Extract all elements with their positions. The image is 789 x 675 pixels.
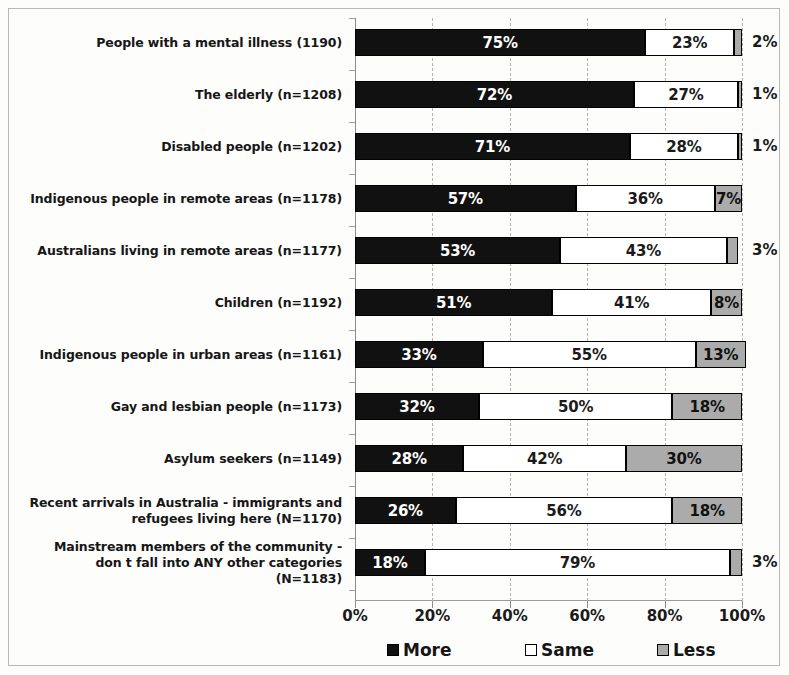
legend-item-same: Same: [525, 640, 594, 660]
category-label: People with a mental illness (1190): [12, 35, 342, 51]
bar-segment-same: 43%: [560, 237, 726, 264]
x-axis-tick-label: 60%: [555, 607, 619, 625]
bar-segment-less: [730, 549, 742, 576]
category-label: Australians living in remote areas (n=11…: [12, 243, 342, 259]
category-label: Disabled people (n=1202): [12, 139, 342, 155]
x-axis-tick-label: 40%: [478, 607, 542, 625]
bar-row: 75%23%: [355, 29, 742, 56]
x-axis-line: [355, 600, 743, 601]
legend-item-less: Less: [657, 640, 716, 660]
bar-segment-same: 23%: [645, 29, 734, 56]
x-axis-tick-label: 20%: [400, 607, 464, 625]
bar-value-label-less-outside: 3%: [752, 237, 777, 264]
bar-segment-more: 18%: [355, 549, 425, 576]
y-axis-tick: [349, 18, 355, 19]
category-label: Mainstream members of the community -don…: [12, 539, 342, 587]
bar-segment-less: 18%: [672, 497, 742, 524]
bar-row: 26%56%18%: [355, 497, 742, 524]
bar-segment-more: 33%: [355, 341, 483, 368]
y-axis-tick: [349, 382, 355, 383]
chart-page: People with a mental illness (1190)The e…: [0, 0, 789, 675]
bar-row: 71%28%: [355, 133, 742, 160]
category-label-line: Mainstream members of the community -: [12, 539, 342, 555]
bar-value-label-less-outside: 1%: [752, 133, 777, 160]
bar-segment-less: 13%: [696, 341, 746, 368]
category-label-line: People with a mental illness (1190): [12, 35, 342, 51]
category-label: Indigenous people in remote areas (n=117…: [12, 191, 342, 207]
y-axis-tick: [349, 70, 355, 71]
y-axis-tick: [349, 590, 355, 591]
x-axis-tick-label: 100%: [710, 607, 774, 625]
x-axis-tick-label: 80%: [633, 607, 697, 625]
category-label-line: Recent arrivals in Australia - immigrant…: [12, 495, 342, 511]
bar-segment-same: 55%: [483, 341, 696, 368]
legend-swatch-same-icon: [525, 644, 537, 656]
bar-segment-less: [738, 133, 742, 160]
bar-segment-less: 8%: [711, 289, 742, 316]
bar-segment-same: 41%: [552, 289, 711, 316]
bar-segment-same: 56%: [456, 497, 673, 524]
bar-row: 57%36%7%: [355, 185, 742, 212]
category-label-line: Disabled people (n=1202): [12, 139, 342, 155]
y-axis-tick: [349, 174, 355, 175]
bar-row: 33%55%13%: [355, 341, 742, 368]
bar-segment-more: 26%: [355, 497, 456, 524]
chart-legend: More Same Less: [355, 640, 745, 666]
y-axis-tick: [349, 122, 355, 123]
plot-area: 75%23%72%27%71%28%57%36%7%53%43%51%41%8%…: [355, 18, 742, 601]
bar-segment-same: 27%: [634, 81, 738, 108]
legend-item-more: More: [387, 640, 452, 660]
bar-row: 72%27%: [355, 81, 742, 108]
category-label-line: refugees living here (N=1170): [12, 511, 342, 527]
bar-segment-more: 75%: [355, 29, 645, 56]
legend-label-same: Same: [541, 640, 594, 660]
category-label-line: don t fall into ANY other categories: [12, 555, 342, 571]
y-axis-tick: [349, 226, 355, 227]
bar-segment-less: [738, 81, 742, 108]
y-axis-tick: [349, 486, 355, 487]
bar-row: 32%50%18%: [355, 393, 742, 420]
y-axis-tick: [349, 330, 355, 331]
bar-row: 18%79%: [355, 549, 742, 576]
bar-segment-same: 28%: [630, 133, 738, 160]
bar-segment-less: [727, 237, 739, 264]
bar-value-label-less-outside: 3%: [752, 549, 777, 576]
category-label-line: Indigenous people in urban areas (n=1161…: [12, 347, 342, 363]
category-label-line: The elderly (n=1208): [12, 87, 342, 103]
legend-label-less: Less: [673, 640, 716, 660]
bar-value-label-less-outside: 1%: [752, 81, 777, 108]
category-label-line: Children (n=1192): [12, 295, 342, 311]
bar-segment-less: [734, 29, 742, 56]
category-label-line: (N=1183): [12, 571, 342, 587]
bar-segment-more: 57%: [355, 185, 576, 212]
legend-label-more: More: [403, 640, 452, 660]
bar-segment-less: 18%: [672, 393, 742, 420]
bar-value-label-less-outside: 2%: [752, 29, 777, 56]
category-label-line: Asylum seekers (n=1149): [12, 451, 342, 467]
bar-row: 28%42%30%: [355, 445, 742, 472]
bar-segment-same: 50%: [479, 393, 673, 420]
bar-segment-more: 51%: [355, 289, 552, 316]
bar-segment-same: 36%: [576, 185, 715, 212]
category-label: Children (n=1192): [12, 295, 342, 311]
bar-segment-more: 28%: [355, 445, 463, 472]
bar-segment-more: 71%: [355, 133, 630, 160]
gridline: [742, 18, 744, 601]
category-label: Indigenous people in urban areas (n=1161…: [12, 347, 342, 363]
category-label: Gay and lesbian people (n=1173): [12, 399, 342, 415]
x-axis-tick-label: 0%: [323, 607, 387, 625]
bar-row: 51%41%8%: [355, 289, 742, 316]
y-axis-tick: [349, 278, 355, 279]
bar-segment-less: 30%: [626, 445, 742, 472]
bar-segment-less: 7%: [715, 185, 742, 212]
y-axis-tick: [349, 538, 355, 539]
category-label-line: Indigenous people in remote areas (n=117…: [12, 191, 342, 207]
legend-swatch-less-icon: [657, 644, 669, 656]
bar-segment-same: 79%: [425, 549, 731, 576]
bar-segment-more: 72%: [355, 81, 634, 108]
category-label-line: Australians living in remote areas (n=11…: [12, 243, 342, 259]
category-label: Recent arrivals in Australia - immigrant…: [12, 495, 342, 527]
category-label-line: Gay and lesbian people (n=1173): [12, 399, 342, 415]
legend-swatch-more-icon: [387, 644, 399, 656]
y-axis-tick: [349, 434, 355, 435]
